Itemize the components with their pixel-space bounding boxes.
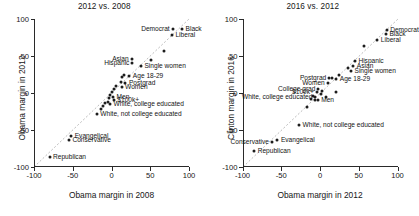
- data-point-label: Evangelical: [281, 137, 315, 144]
- panel-left-x-tick: [73, 167, 74, 171]
- panel-right-x-tick-label: -50: [276, 171, 287, 180]
- data-point: [171, 28, 174, 31]
- data-point-label: Republican: [53, 154, 86, 161]
- data-point: [119, 80, 122, 83]
- panel-right-x-tick-label: -100: [235, 171, 250, 180]
- panel-left-x-tick-label: 100: [183, 171, 196, 180]
- data-point: [95, 113, 98, 116]
- data-point-label: White, college educated: [113, 101, 183, 108]
- data-point: [350, 69, 353, 72]
- data-point-label: Hispanic: [104, 59, 129, 66]
- data-point: [111, 90, 114, 93]
- panel-right-x-tick-label: 0: [318, 171, 322, 180]
- data-point: [298, 123, 301, 126]
- data-point: [315, 91, 318, 94]
- panel-left-y-tick-label: 0: [25, 89, 29, 98]
- data-point: [326, 81, 329, 84]
- panel-right-y-tick-label: 50: [229, 52, 237, 61]
- data-point: [130, 57, 133, 60]
- panel-right-y-tick-label: -50: [227, 126, 238, 135]
- data-point: [276, 139, 279, 142]
- panel-left-y-tick: [31, 56, 35, 57]
- data-point-label: Women: [125, 84, 148, 91]
- panel-left-y-tick: [31, 130, 35, 131]
- panel-right-y-tick-label: 0: [233, 89, 237, 98]
- data-point: [314, 98, 317, 101]
- data-point: [385, 29, 388, 32]
- panel-right-y-tick-label: 100: [225, 15, 238, 24]
- data-point: [163, 49, 166, 52]
- panel-right: 2016 vs. 2012 Clinton margin in 2016 Oba…: [209, 0, 418, 216]
- data-point: [253, 150, 256, 153]
- panel-left-y-tick: [31, 93, 35, 94]
- data-point: [103, 101, 106, 104]
- panel-right-x-tick: [243, 167, 244, 171]
- panel-left-y-axis: [34, 19, 35, 167]
- data-point: [115, 84, 118, 87]
- panel-left-y-axis-title: Obama margin in 2012: [17, 24, 27, 172]
- data-point: [128, 74, 131, 77]
- panel-left-x-tick: [150, 167, 151, 171]
- panel-left-x-axis-title: Obama margin in 2008: [34, 190, 189, 200]
- panel-left-x-tick: [34, 167, 35, 171]
- panel-right-x-tick: [320, 167, 321, 171]
- panel-right-y-tick: [239, 56, 243, 57]
- panel-right-x-axis-title: Obama margin in 2012: [243, 190, 398, 200]
- data-point: [120, 75, 123, 78]
- data-point-label: Men: [321, 97, 334, 104]
- data-point-label: Age 18-29: [340, 76, 370, 83]
- panel-left-x-tick-label: 50: [146, 171, 154, 180]
- panel-right-y-tick: [239, 19, 243, 20]
- data-point: [170, 34, 173, 37]
- data-point-label: Single women: [355, 68, 396, 75]
- panel-left-x-tick-label: 0: [109, 171, 113, 180]
- data-point-label: Democrat: [141, 26, 170, 33]
- data-point-label: Republican: [258, 148, 291, 155]
- data-point-label: White, college educated: [242, 93, 312, 100]
- data-point: [335, 90, 338, 93]
- data-point: [310, 97, 313, 100]
- panel-left-x-tick-label: -50: [67, 171, 78, 180]
- panel-right-y-axis-title: Clinton margin in 2016: [226, 24, 236, 172]
- data-point: [120, 86, 123, 89]
- panel-right-plot-area: -100-50050100-100-50050100DemocratBlackL…: [243, 19, 398, 167]
- data-point-label: White, not college educated: [100, 111, 181, 118]
- panel-left-y-tick-label: 50: [21, 52, 29, 61]
- panel-left-plot-area: -100-50050100-100-50050100BlackDemocratL…: [34, 19, 189, 167]
- panel-right-x-tick: [359, 167, 360, 171]
- panel-right-x-tick: [281, 167, 282, 171]
- data-point-label: Liberal: [381, 36, 401, 43]
- panel-left-title: 2012 vs. 2008: [0, 2, 209, 11]
- panel-right-x-tick-label: 50: [355, 171, 363, 180]
- data-point: [108, 97, 111, 100]
- panel-right-title: 2016 vs. 2012: [209, 2, 418, 11]
- data-point: [139, 65, 142, 68]
- data-point: [346, 66, 349, 69]
- data-point: [376, 38, 379, 41]
- data-point: [331, 77, 334, 80]
- panel-right-x-tick: [398, 167, 399, 171]
- panel-right-y-tick: [239, 130, 243, 131]
- data-point: [67, 138, 70, 141]
- data-point: [270, 140, 273, 143]
- panel-left: 2012 vs. 2008 Obama margin in 2012 Obama…: [0, 0, 209, 216]
- panel-left-x-tick: [112, 167, 113, 171]
- panel-left-x-tick: [189, 167, 190, 171]
- data-point: [48, 156, 51, 159]
- data-point-label: White, not college educated: [303, 122, 384, 129]
- data-point: [131, 61, 134, 64]
- data-point: [305, 106, 308, 109]
- data-point-label: Conservative: [72, 136, 110, 143]
- data-point: [319, 92, 322, 95]
- data-point: [335, 77, 338, 80]
- panel-left-y-tick-label: 100: [16, 15, 29, 24]
- panel-left-x-tick-label: -100: [26, 171, 41, 180]
- panel-left-y-tick: [31, 19, 35, 20]
- data-point: [108, 103, 111, 106]
- data-point-label: Liberal: [175, 32, 195, 39]
- data-point: [112, 95, 115, 98]
- panel-left-y-tick-label: -50: [18, 126, 29, 135]
- data-point-label: Single women: [144, 63, 185, 70]
- data-point: [363, 45, 366, 48]
